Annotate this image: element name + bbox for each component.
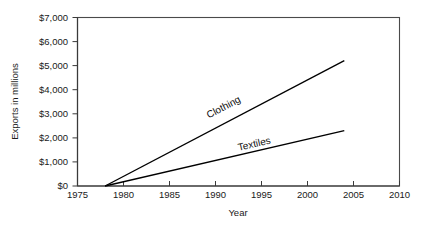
y-tick-label-3000: $3,000	[39, 108, 68, 119]
y-tick-label-4000: $4,000	[39, 84, 68, 95]
x-axis-title: Year	[228, 207, 247, 218]
x-tick-label-1995: 1995	[251, 189, 272, 200]
y-tick-label-1000: $1,000	[39, 156, 68, 167]
x-tick-label-2000: 2000	[297, 189, 318, 200]
series-line-clothing	[105, 61, 344, 186]
x-tick-label-2005: 2005	[343, 189, 364, 200]
series-label-clothing: Clothing	[205, 94, 243, 121]
series-line-textiles	[105, 131, 344, 186]
chart-canvas: $0 $1,000 $2,000 $3,000 $4,000 $5,000 $6…	[0, 0, 438, 226]
y-tick-label-6000: $6,000	[39, 36, 68, 47]
x-tick-label-1975: 1975	[67, 189, 88, 200]
x-tick-label-1990: 1990	[205, 189, 226, 200]
x-tick-label-1980: 1980	[113, 189, 134, 200]
y-axis-title: Exports in millions	[9, 63, 20, 140]
x-tick-label-1985: 1985	[159, 189, 180, 200]
x-tick-label-2010: 2010	[389, 189, 410, 200]
y-tick-label-5000: $5,000	[39, 60, 68, 71]
y-tick-label-7000: $7,000	[39, 12, 68, 23]
line-chart: $0 $1,000 $2,000 $3,000 $4,000 $5,000 $6…	[0, 0, 438, 226]
series-label-textiles: Textiles	[237, 134, 272, 152]
y-tick-marks	[73, 18, 78, 187]
y-tick-label-2000: $2,000	[39, 132, 68, 143]
